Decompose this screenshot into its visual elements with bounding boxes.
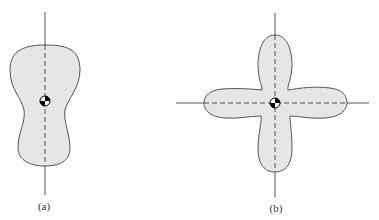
figure-b [176, 13, 369, 197]
centroid-icon [40, 96, 50, 106]
centroid-icon [270, 98, 280, 108]
diagram-canvas [0, 0, 379, 220]
figure-a [10, 12, 80, 195]
figure-a-label: (a) [38, 200, 50, 212]
figure-b-label: (b) [270, 202, 283, 214]
